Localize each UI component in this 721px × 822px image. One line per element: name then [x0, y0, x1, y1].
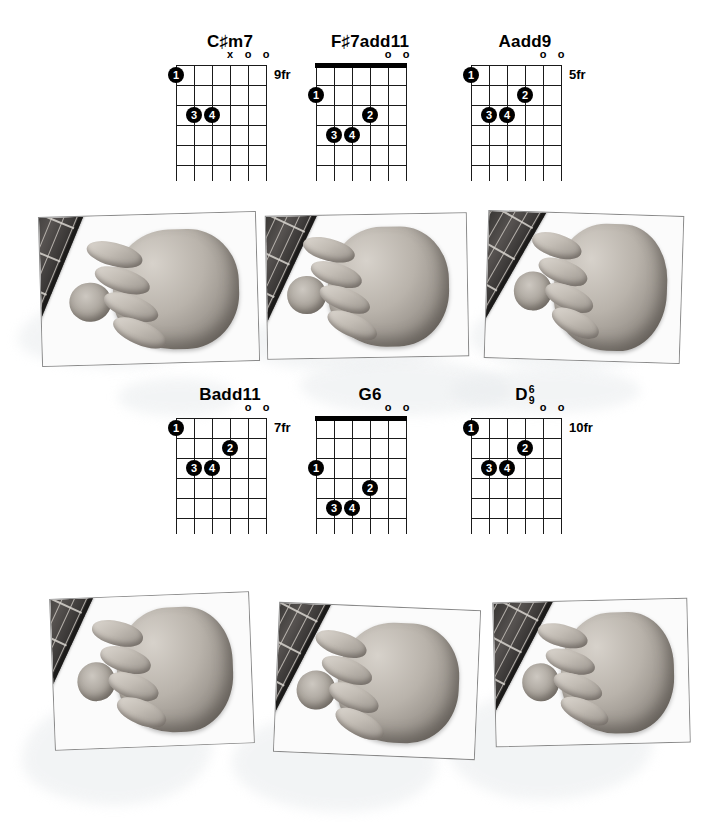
fretboard-grid: 1234	[471, 65, 561, 165]
string-tail	[525, 518, 526, 534]
finger-dot-4: 4	[204, 107, 220, 123]
chord-aadd9-fretboard: 1234	[471, 65, 561, 165]
fretboard-grid: 1234	[176, 418, 266, 518]
open-string-icon: o	[537, 401, 549, 414]
finger-dot-2: 2	[362, 107, 378, 123]
photo-content	[50, 592, 254, 749]
guitar-string	[39, 212, 40, 366]
finger-dot-1: 1	[308, 87, 324, 103]
finger-dot-2: 2	[222, 440, 238, 456]
chord-d-6-9-top-markers: oo	[471, 401, 563, 416]
fret-line	[176, 458, 266, 459]
string-line	[561, 418, 562, 518]
nut-bar	[315, 416, 407, 421]
fret-line	[176, 125, 266, 126]
fretboard-grid: 1234	[316, 65, 406, 165]
finger-dot-2: 2	[517, 87, 533, 103]
fret-line	[316, 458, 406, 459]
fret-line	[316, 145, 406, 146]
string-line	[388, 65, 389, 165]
guitar-string	[50, 592, 52, 749]
finger-dot-1: 1	[463, 67, 479, 83]
chord-c-sharp-m7-top-markers: xoo	[176, 48, 268, 63]
photo-d-6-9	[492, 598, 690, 748]
string-line	[334, 65, 335, 165]
photo-content	[493, 599, 689, 747]
fret-line	[176, 498, 266, 499]
string-tails	[176, 518, 266, 534]
fret-line	[176, 105, 266, 106]
open-string-icon: o	[382, 401, 394, 414]
finger-dot-4: 4	[204, 460, 220, 476]
finger-dot-1: 1	[168, 67, 184, 83]
string-line	[388, 418, 389, 518]
open-string-icon: o	[400, 401, 412, 414]
finger-dot-3: 3	[326, 500, 342, 516]
finger-dot-1: 1	[168, 420, 184, 436]
string-tails	[176, 165, 266, 181]
fret-line	[471, 85, 561, 86]
string-tail	[370, 165, 371, 181]
fret-line	[471, 498, 561, 499]
string-tail	[248, 165, 249, 181]
muted-string-icon: x	[224, 48, 236, 61]
string-line	[525, 418, 526, 518]
chord-aadd9-fret-position-label: 5fr	[569, 67, 586, 82]
open-string-icon: o	[555, 48, 567, 61]
fret-line	[176, 85, 266, 86]
string-line	[352, 65, 353, 165]
open-string-icon: o	[242, 48, 254, 61]
chord-badd11-fretboard: 1234	[176, 418, 266, 518]
photo-badd11	[49, 591, 255, 751]
string-line	[248, 65, 249, 165]
fretboard-grid: 1234	[471, 418, 561, 518]
string-tail	[471, 518, 472, 534]
finger-dot-3: 3	[481, 107, 497, 123]
photo-content	[266, 213, 468, 358]
fret-line	[471, 105, 561, 106]
finger-dot-3: 3	[186, 460, 202, 476]
string-tail	[194, 518, 195, 534]
finger-dot-4: 4	[344, 127, 360, 143]
open-string-icon: o	[242, 401, 254, 414]
fret-line	[176, 478, 266, 479]
string-line	[248, 418, 249, 518]
open-string-icon: o	[260, 48, 272, 61]
string-tail	[212, 518, 213, 534]
string-tail	[507, 165, 508, 181]
fret-line	[176, 418, 266, 419]
photo-content	[39, 212, 259, 366]
finger-dot-3: 3	[186, 107, 202, 123]
string-tail	[543, 165, 544, 181]
chord-sheet-page: C♯m7xoo1349frF♯7add11oo1234Aadd9oo12345f…	[0, 0, 721, 822]
fret-line	[471, 418, 561, 419]
finger-dot-3: 3	[326, 127, 342, 143]
string-line	[561, 65, 562, 165]
string-tail	[230, 165, 231, 181]
fret-line	[316, 478, 406, 479]
string-tail	[194, 165, 195, 181]
fret-line	[471, 438, 561, 439]
string-tail	[561, 165, 562, 181]
string-tails	[316, 518, 406, 534]
string-tails	[316, 165, 406, 181]
open-string-icon: o	[400, 48, 412, 61]
string-tail	[406, 518, 407, 534]
open-string-icon: o	[537, 48, 549, 61]
fret-line	[471, 145, 561, 146]
chord-c-sharp-m7-fret-position-label: 9fr	[274, 67, 291, 82]
string-tail	[266, 165, 267, 181]
chord-f-sharp-7add11-top-markers: oo	[316, 48, 408, 63]
string-tail	[352, 518, 353, 534]
string-tail	[334, 518, 335, 534]
finger-dot-2: 2	[517, 440, 533, 456]
string-line	[266, 418, 267, 518]
string-tail	[471, 165, 472, 181]
string-line	[266, 65, 267, 165]
fretboard-grid: 1234	[316, 418, 406, 518]
fret-line	[176, 65, 266, 66]
string-tail	[334, 165, 335, 181]
chord-g6-fretboard: 1234	[316, 418, 406, 518]
photo-aadd9	[484, 210, 685, 364]
string-line	[316, 65, 317, 165]
